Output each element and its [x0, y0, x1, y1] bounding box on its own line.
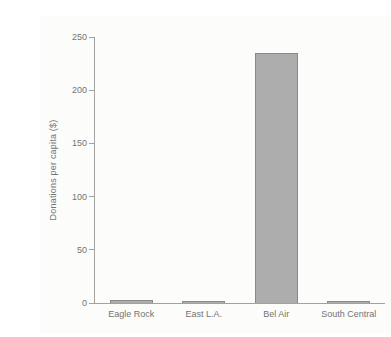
y-tick-mark: [89, 249, 94, 250]
y-tick-label: 200: [51, 85, 87, 95]
bar-south-central: [327, 301, 370, 303]
y-tick-mark: [89, 37, 94, 38]
y-tick-label: 100: [51, 192, 87, 202]
y-tick-mark: [89, 196, 94, 197]
bar-east-l-a: [182, 301, 225, 303]
y-tick-label: 250: [51, 32, 87, 42]
x-category-label: Bel Air: [240, 309, 312, 319]
y-tick-mark: [89, 143, 94, 144]
x-category-label: Eagle Rock: [95, 309, 167, 319]
bar-eagle-rock: [110, 300, 153, 303]
y-tick-label: 150: [51, 138, 87, 148]
plot-area: 050100150200250Eagle RockEast L.A.Bel Ai…: [94, 37, 385, 304]
bar-bel-air: [255, 53, 298, 303]
bar-chart: Donations per capita ($) 050100150200250…: [40, 16, 391, 333]
x-category-label: East L.A.: [168, 309, 240, 319]
y-axis-title: Donations per capita ($): [48, 120, 58, 221]
y-tick-mark: [89, 303, 94, 304]
y-tick-mark: [89, 90, 94, 91]
y-tick-label: 0: [51, 298, 87, 308]
x-category-label: South Central: [313, 309, 385, 319]
y-tick-label: 50: [51, 245, 87, 255]
